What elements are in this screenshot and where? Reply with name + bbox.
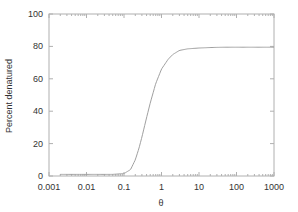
- plot-frame: [49, 14, 274, 176]
- x-tick-label: 100: [229, 182, 244, 192]
- x-tick-label: 10: [194, 182, 204, 192]
- y-tick-label: 100: [28, 9, 43, 19]
- y-tick-labels: 020406080100: [28, 9, 43, 181]
- y-tick-label: 40: [33, 106, 43, 116]
- chart: 0.0010.010.11101001000 020406080100 θ Pe…: [0, 0, 298, 212]
- y-tick-label: 0: [38, 171, 43, 181]
- y-tick-label: 80: [33, 41, 43, 51]
- y-tick-label: 20: [33, 139, 43, 149]
- x-tick-label: 1: [159, 182, 164, 192]
- plot-border: [49, 14, 274, 176]
- y-axis-label: Percent denatured: [4, 59, 14, 133]
- y-tick-label: 60: [33, 74, 43, 84]
- x-tick-label: 0.01: [78, 182, 96, 192]
- chart-svg: 0.0010.010.11101001000 020406080100 θ Pe…: [0, 0, 298, 212]
- axis-ticks: [49, 14, 274, 176]
- x-tick-labels: 0.0010.010.11101001000: [38, 182, 284, 192]
- x-tick-label: 0.1: [118, 182, 131, 192]
- x-tick-label: 1000: [264, 182, 284, 192]
- x-axis-label: θ: [158, 198, 163, 208]
- data-line: [60, 47, 274, 174]
- x-tick-label: 0.001: [38, 182, 61, 192]
